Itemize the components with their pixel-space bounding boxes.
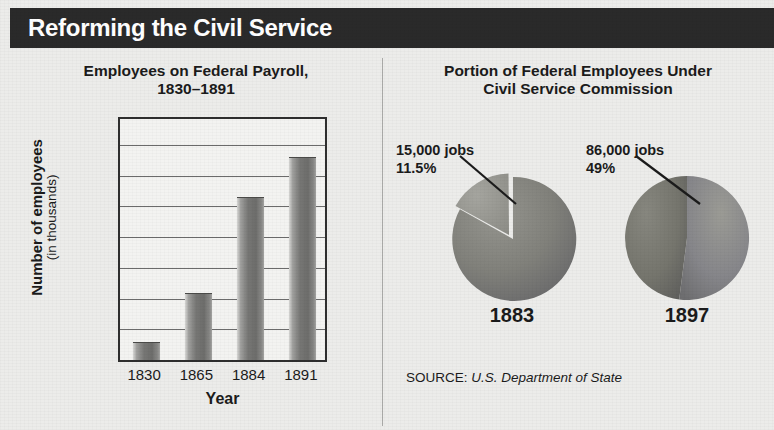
source-label: SOURCE: (406, 370, 468, 385)
pie-callout-1883-percent: 11.5% (396, 160, 436, 176)
bar-1865 (185, 293, 212, 360)
bar-chart-plot-area (118, 117, 327, 362)
source-value: U.S. Department of State (471, 370, 622, 385)
pie-chart-title-line1: Portion of Federal Employees Under (444, 62, 712, 79)
bar-chart-title-line2: 1830–1891 (157, 80, 235, 97)
bar-chart-title-line1: Employees on Federal Payroll, (84, 62, 309, 79)
pie-1883-leader-line (458, 152, 548, 216)
x-axis-tick-label: 1830 (127, 366, 160, 383)
y-axis-title-line1: Number of employees (29, 112, 45, 322)
pie-chart-panel: Portion of Federal Employees Under Civil… (382, 52, 774, 430)
infographic-figure: Reforming the Civil Service Employees on… (0, 0, 774, 430)
bar-chart-x-axis-title: Year (118, 390, 327, 408)
pie-chart-title-line2: Civil Service Commission (483, 80, 673, 97)
figure-title-bar: Reforming the Civil Service (10, 8, 774, 48)
bar-chart-panel: Employees on Federal Payroll, 1830–1891 … (0, 52, 382, 430)
x-axis-tick-label: 1891 (284, 366, 317, 383)
y-axis-title-line2: (in thousands) (45, 112, 60, 322)
panel-divider (382, 58, 383, 426)
pie-1897-leader-line (634, 152, 734, 216)
x-axis-tick-label: 1865 (180, 366, 213, 383)
pie-callout-1897-percent: 49% (586, 160, 615, 176)
gridline (120, 145, 325, 146)
bar-chart-y-axis-title: Number of employees (in thousands) (29, 112, 60, 322)
bar-1884 (237, 197, 264, 361)
bar-chart-title: Employees on Federal Payroll, 1830–1891 (36, 62, 356, 99)
x-axis-tick-label: 1884 (232, 366, 265, 383)
bar-1830 (133, 342, 160, 360)
source-note: SOURCE: U.S. Department of State (406, 370, 622, 385)
bar-1891 (289, 157, 316, 360)
pie-1883-year: 1883 (452, 304, 572, 327)
figure-title: Reforming the Civil Service (28, 14, 332, 42)
pie-chart-title: Portion of Federal Employees Under Civil… (390, 62, 766, 99)
pie-1897-year: 1897 (627, 304, 747, 327)
